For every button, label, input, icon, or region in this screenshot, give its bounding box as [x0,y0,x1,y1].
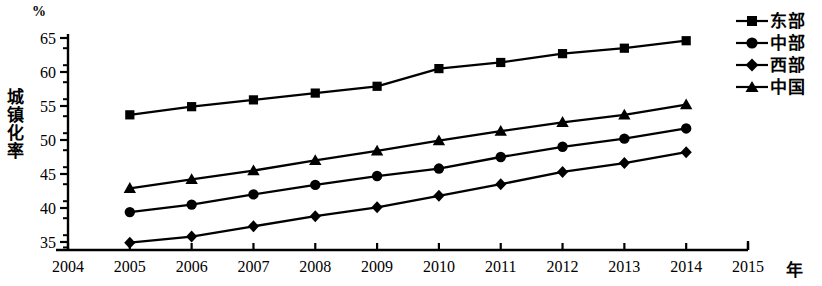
y-tick-label: 45 [40,166,56,183]
legend-symbol-square [735,11,769,31]
y-tick-label: 40 [40,200,56,217]
x-tick-label: 2009 [361,258,393,275]
series-西部 [124,146,692,248]
series-东部 [125,36,691,119]
data-point [434,64,443,73]
series-line [130,41,686,115]
data-point [372,82,381,91]
legend-item-central[interactable]: 中部 [735,32,821,54]
data-point [557,166,568,178]
legend-label-east: 东部 [769,13,805,30]
series-line [130,152,686,242]
legend-item-china[interactable]: 中国 [735,76,821,98]
urbanization-rate-line-chart: % 城 镇 化 率 354045505560652004200520062007… [0,0,822,286]
data-point [681,123,691,133]
x-tick-label: 2015 [732,258,764,275]
x-tick-label: 2010 [423,258,455,275]
data-point [125,110,134,119]
legend-symbol-diamond [735,55,769,75]
data-point [496,152,506,162]
x-tick-label: 2012 [547,258,579,275]
data-point [434,163,444,173]
data-point [186,199,196,209]
series-中部 [125,123,692,217]
legend-item-west[interactable]: 西部 [735,54,821,76]
data-point [248,189,258,199]
legend-label-central: 中部 [769,35,805,52]
data-point [619,157,630,169]
legend: 东部 中部 西部 中国 [735,10,821,98]
data-point [619,133,629,143]
y-tick-label: 55 [40,98,56,115]
x-axis-unit-label: 年 [786,256,803,281]
legend-label-west: 西部 [769,57,805,74]
data-point [620,44,629,53]
data-point [310,210,321,222]
data-point [124,237,135,249]
data-point [125,207,135,217]
data-point [310,180,320,190]
series-中国 [124,98,693,192]
series-line [130,105,686,189]
y-tick-label: 50 [40,132,56,149]
data-point [496,58,505,67]
x-tick-label: 2011 [485,258,516,275]
plot-area: 3540455055606520042005200620072008200920… [0,0,822,286]
data-point [682,36,691,45]
data-point [187,102,196,111]
x-tick-label: 2004 [52,258,84,275]
legend-label-china: 中国 [769,79,805,96]
x-tick-label: 2006 [176,258,208,275]
data-point [249,95,258,104]
legend-symbol-triangle [735,77,769,97]
y-tick-label: 65 [40,30,56,47]
x-tick-label: 2005 [114,258,146,275]
data-point [311,88,320,97]
series-line [130,128,686,212]
data-point [680,98,692,109]
y-tick-label: 60 [40,64,56,81]
y-tick-label: 35 [40,234,56,251]
data-point [433,190,444,202]
x-tick-label: 2008 [299,258,331,275]
data-point [371,201,382,213]
x-tick-label: 2013 [608,258,640,275]
data-point [557,142,567,152]
data-point [372,171,382,181]
data-point [495,178,506,190]
data-point [558,49,567,58]
legend-item-east[interactable]: 东部 [735,10,821,32]
legend-symbol-circle [735,33,769,53]
data-point [248,220,259,232]
data-point [681,146,692,158]
x-tick-label: 2014 [670,258,702,275]
x-tick-label: 2007 [237,258,269,275]
data-point [186,231,197,243]
